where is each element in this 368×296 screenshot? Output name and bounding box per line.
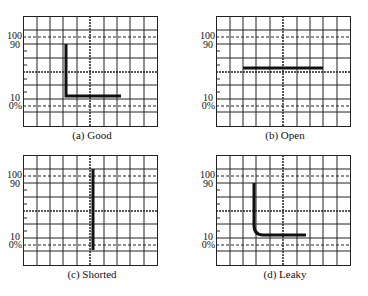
trace-leaky [254,183,306,235]
label-0: 0% [0,240,22,250]
label-0: 0% [193,240,215,250]
scope-grid [0,139,184,287]
label-0: 0% [0,101,22,111]
panel-good: 100 90 10 0% (a) Good [0,0,184,148]
panel-shorted: 100 90 10 0% (c) Shorted [0,139,184,287]
label-90: 90 [0,40,20,50]
scope-grid [193,0,368,148]
scope-grid [193,139,368,287]
scope-grid [0,0,184,148]
caption-leaky: (d) Leaky [193,268,368,280]
panel-open: 100 90 10 0% (b) Open [193,0,368,148]
label-90: 90 [0,179,20,189]
panel-leaky: 100 90 10 0% (d) Leaky [193,139,368,287]
trace-good [66,44,121,96]
caption-shorted: (c) Shorted [0,268,184,280]
label-90: 90 [191,40,213,50]
label-0: 0% [193,101,215,111]
label-90: 90 [191,179,213,189]
